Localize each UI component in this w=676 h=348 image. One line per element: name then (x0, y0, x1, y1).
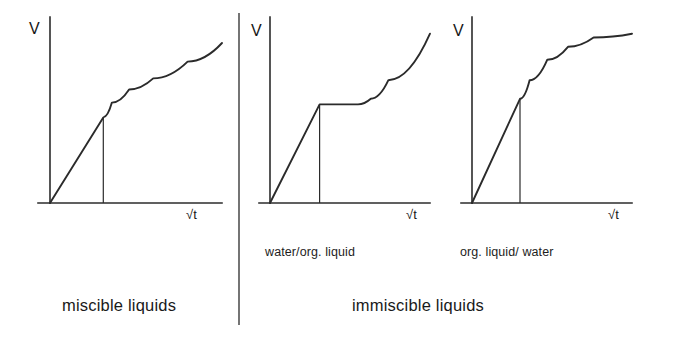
curve-panel1 (50, 43, 222, 203)
chart-panel-org-water: V √t (453, 17, 632, 222)
x-axis-label-panel3: √t (608, 207, 619, 222)
y-axis-label-panel1: V (29, 20, 40, 37)
panel-caption-water-org: water/org. liquid (265, 245, 355, 259)
panel-caption-org-water: org. liquid/ water (460, 245, 554, 259)
x-axis-label-panel2: √t (406, 207, 417, 222)
y-axis-label-panel3: V (453, 22, 464, 39)
group-caption-immiscible: immiscible liquids (352, 296, 484, 315)
x-axis-label-panel1: √t (186, 207, 197, 222)
chart-panel-water-org: V √t (251, 17, 430, 222)
curve-panel3 (472, 34, 632, 203)
chart-panel-miscible: V √t (29, 17, 222, 222)
curve-panel2 (270, 34, 430, 203)
y-axis-label-panel2: V (251, 22, 262, 39)
group-caption-miscible: miscible liquids (62, 296, 176, 315)
figure-root: V √t V √t V √t water/org. liquid org. li… (0, 0, 676, 348)
